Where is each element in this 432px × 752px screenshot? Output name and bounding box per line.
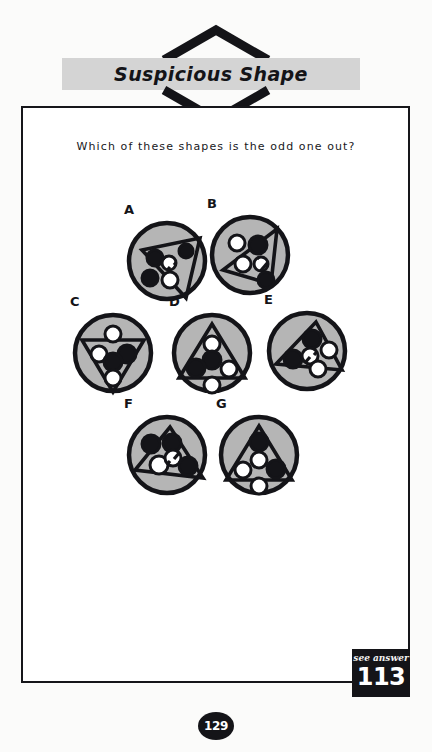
dot-white-center (251, 452, 267, 468)
shape-letter-g: G (216, 396, 227, 411)
dot-black-top-center (249, 236, 267, 254)
see-answer-number: 113 (352, 664, 410, 690)
shape-option-f[interactable]: F (124, 396, 210, 500)
page-title: Suspicious Shape (114, 63, 308, 85)
shape-option-a[interactable]: A (124, 202, 210, 306)
shape-option-d[interactable]: D (169, 294, 255, 398)
dot-hatched-center (104, 353, 122, 371)
shape-letter-a: A (124, 202, 134, 217)
shape-letter-f: F (124, 396, 133, 411)
dot-white-bottom (105, 370, 121, 386)
dot-white-bottom (310, 361, 326, 377)
shape-letter-d: D (169, 294, 180, 309)
dot-white-left (235, 462, 251, 478)
dot-slashed-center (254, 257, 268, 271)
dot-black-left (284, 350, 302, 368)
shape-disc-c (70, 310, 156, 396)
shape-disc-f (124, 412, 210, 498)
shape-disc-g (216, 412, 302, 498)
shape-disc-b (207, 212, 293, 298)
dot-white-mid-left (235, 256, 251, 272)
dot-black-top (250, 433, 268, 451)
shape-option-e[interactable]: E (264, 292, 350, 396)
dot-black-right (179, 457, 197, 475)
see-answer-badge[interactable]: see answer 113 (352, 649, 410, 697)
dot-white-right (221, 361, 237, 377)
header: Suspicious Shape (0, 0, 432, 120)
shape-option-b[interactable]: B (207, 196, 293, 300)
dot-white-right (321, 342, 337, 358)
shapes-grid: ABCDEFG (21, 106, 410, 683)
dot-slashed-center (162, 256, 176, 270)
page-number-label: 129 (204, 719, 228, 733)
shape-disc-d (169, 310, 255, 396)
shape-option-g[interactable]: G (216, 396, 302, 500)
title-band: Suspicious Shape (62, 58, 360, 90)
shape-disc-e (264, 308, 350, 394)
shape-letter-c: C (70, 294, 80, 309)
dot-black-upper-left (142, 435, 160, 453)
dot-black-right-upper (179, 244, 193, 258)
dot-white-top-left (229, 235, 245, 251)
dot-black-left (187, 359, 205, 377)
shape-letter-e: E (264, 292, 273, 307)
dot-black-top (303, 330, 321, 348)
page-number-badge: 129 (198, 712, 234, 740)
dot-white-apex-top (105, 326, 121, 342)
shape-option-c[interactable]: C (70, 294, 156, 398)
shape-letter-b: B (207, 196, 217, 211)
dot-white-bottom (204, 377, 220, 393)
dot-white-lower (162, 272, 178, 288)
dot-black-left-lower (142, 270, 158, 286)
dot-black-bottom (258, 272, 274, 288)
dot-black-right (267, 460, 285, 478)
chevron-up-icon (160, 26, 272, 62)
shape-disc-a (124, 218, 210, 304)
dot-white-bottom (251, 478, 267, 494)
